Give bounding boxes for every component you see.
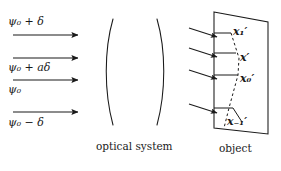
object-point-label-xminus1-prime: x₋₁′ (227, 116, 247, 127)
object-point-label-x1-prime: x₁′ (233, 26, 247, 37)
object-point-label-x1-prime-text: x₁′ (233, 25, 247, 38)
beam-label-3: ψ₀ (8, 84, 21, 95)
object-caption: object (219, 143, 252, 154)
lens-arc-left (106, 19, 113, 125)
object-incident-arrows (189, 28, 217, 113)
object-point-label-x0-prime-text: x₀′ (240, 72, 254, 85)
beam-label-4-text: ψ₀ − δ (8, 116, 44, 129)
optical-system-caption: optical system (96, 141, 173, 152)
object-arrow-1 (189, 28, 217, 37)
object-point-label-x-prime: x′ (240, 52, 249, 63)
beam-label-1-text: ψ₀ + δ (8, 15, 44, 28)
object-connector-lines (214, 33, 242, 122)
beam-label-2-text: ψ₀ + aδ (8, 61, 50, 74)
object-point-label-x-prime-text: x′ (240, 51, 249, 64)
lens-arc-right (157, 19, 164, 125)
object-point-label-xminus1-prime-text: x₋₁′ (227, 115, 247, 128)
object-arrow-3 (189, 70, 217, 79)
object-arrow-2 (189, 48, 217, 57)
beam-label-1: ψ₀ + δ (8, 16, 44, 27)
optics-diagram: ψ₀ + δ ψ₀ + aδ ψ₀ ψ₀ − δ optical system … (0, 0, 281, 171)
beam-label-4: ψ₀ − δ (8, 117, 44, 128)
object-caption-text: object (219, 142, 252, 154)
beam-label-3-text: ψ₀ (8, 83, 21, 96)
optical-system-caption-text: optical system (96, 140, 173, 152)
object-arrow-4 (189, 104, 217, 113)
beam-label-2: ψ₀ + aδ (8, 62, 50, 73)
optical-system-lens (106, 19, 164, 125)
object-point-label-x0-prime: x₀′ (240, 73, 254, 84)
